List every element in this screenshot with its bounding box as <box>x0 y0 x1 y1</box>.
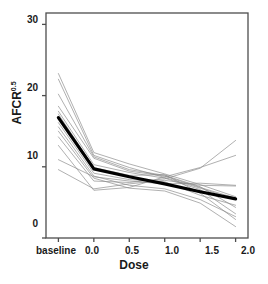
mean-line <box>58 118 235 199</box>
x-tick-label-0-0: 0.0 <box>72 245 112 256</box>
subject-line <box>58 74 235 197</box>
y-tick-label-30: 30 <box>18 14 38 25</box>
y-tick-label-10: 10 <box>18 150 38 161</box>
chart-figure: 30 20 10 0 baseline 0.0 0.5 1.0 1.5 2.0 … <box>0 0 268 284</box>
x-tick-label-2-0: 2.0 <box>228 245 268 256</box>
subject-line <box>58 111 235 214</box>
y-axis-title: AFCR0.5 <box>10 63 24 143</box>
series-layer <box>58 74 235 227</box>
x-axis-title: Dose <box>0 258 268 272</box>
x-tick-label-1-5: 1.5 <box>192 245 232 256</box>
plot-canvas <box>0 0 268 284</box>
y-axis-title-text: AFCR <box>10 91 24 124</box>
x-tick-label-0-5: 0.5 <box>112 245 152 256</box>
y-tick-label-0: 0 <box>18 218 38 229</box>
y-axis-title-exponent: 0.5 <box>10 81 17 91</box>
x-tick-label-1-0: 1.0 <box>152 245 192 256</box>
